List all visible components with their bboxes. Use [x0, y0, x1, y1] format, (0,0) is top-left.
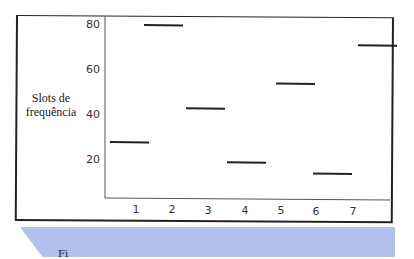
y-tick-40: 40 — [76, 108, 100, 121]
y-tick-60: 60 — [76, 63, 100, 76]
y-tick-80: 80 — [76, 18, 100, 31]
y-axis-label-line1: Slots de — [18, 91, 84, 105]
x-tick-2: 2 — [165, 203, 179, 216]
segment-time-4 — [227, 162, 266, 163]
x-tick-5: 5 — [274, 204, 288, 217]
x-tick-1: 1 — [129, 203, 143, 216]
x-tick-7: 7 — [346, 205, 360, 218]
data-segments — [110, 25, 397, 174]
x-tick-4: 4 — [238, 204, 252, 217]
segment-time-6 — [313, 174, 352, 175]
y-axis-label: Slots de frequência — [18, 91, 84, 119]
segment-time-3 — [186, 108, 225, 109]
x-tick-3: 3 — [201, 204, 215, 217]
x-axis — [105, 198, 390, 200]
segment-time-2 — [144, 25, 183, 26]
segment-time-7 — [358, 45, 397, 46]
y-tick-20: 20 — [76, 153, 100, 166]
segment-time-5 — [276, 84, 315, 85]
caption-band — [20, 227, 395, 257]
y-axis-label-line2: frequência — [18, 105, 84, 119]
x-tick-6: 6 — [309, 205, 323, 218]
caption-fragment: Fi — [58, 248, 68, 259]
segment-time-1 — [110, 142, 149, 143]
